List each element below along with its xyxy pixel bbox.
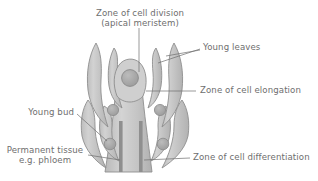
- phloem-strand-left: [119, 121, 123, 172]
- label-zone-of-cell-differentiation: Zone of cell differentiation: [193, 152, 310, 162]
- label-young-bud: Young bud: [12, 107, 74, 117]
- label-zone-of-cell-division-line1: Zone of cell division: [85, 8, 195, 18]
- label-permanent-tissue: Permanent tissue e.g. phloem: [2, 145, 88, 166]
- label-zone-of-cell-division-line2: (apical meristem): [85, 18, 195, 28]
- bud-node-upper-left: [107, 104, 118, 115]
- phloem-strand-right: [139, 121, 143, 172]
- bud-node-upper-right: [154, 104, 165, 115]
- label-zone-of-cell-elongation: Zone of cell elongation: [200, 85, 301, 95]
- leaf-primordium-right: [148, 48, 162, 108]
- bud-node-lower-right: [157, 138, 169, 150]
- label-young-leaves: Young leaves: [203, 42, 260, 52]
- label-permanent-tissue-line2: e.g. phloem: [2, 155, 88, 165]
- diagram-canvas: Zone of cell division (apical meristem) …: [0, 0, 318, 181]
- meristem-circle: [122, 70, 139, 87]
- plant-tissue-body: [81, 43, 189, 172]
- label-zone-of-cell-division: Zone of cell division (apical meristem): [85, 8, 195, 29]
- label-permanent-tissue-line1: Permanent tissue: [2, 145, 88, 155]
